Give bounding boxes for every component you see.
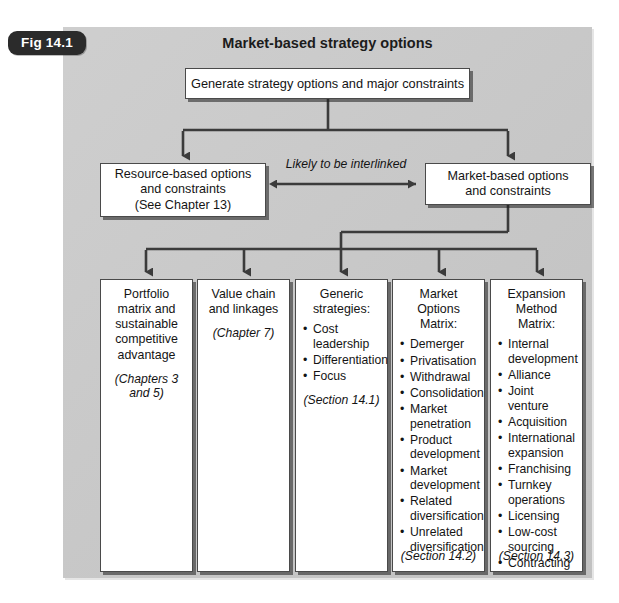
node-resource-line3: (See Chapter 13) xyxy=(135,198,232,212)
list-item: Franchising xyxy=(498,462,576,477)
node-resource-label: Resource-based options and constraints (… xyxy=(115,167,252,213)
column-portfolio-matrix: Portfolio matrix and sustainable competi… xyxy=(100,279,193,572)
list-item: Privatisation xyxy=(400,354,478,369)
column-value-chain-head: Value chain and linkages xyxy=(204,287,283,317)
column-expansion-method-matrix-section: (Section 14.3) xyxy=(491,549,582,563)
column-generic-strategies-bullets: Cost leadershipDifferentiationFocus xyxy=(303,322,381,384)
list-item: Focus xyxy=(303,369,381,384)
list-item: Market development xyxy=(400,464,478,493)
node-resource-line1: Resource-based options xyxy=(115,167,252,181)
node-market-line1: Market-based options xyxy=(447,169,568,183)
column-portfolio-matrix-head: Portfolio matrix and sustainable competi… xyxy=(107,287,186,363)
list-item: Withdrawal xyxy=(400,370,478,385)
list-item: Product development xyxy=(400,433,478,462)
column-generic-strategies: Generic strategies: Cost leadershipDiffe… xyxy=(295,279,388,572)
node-market-based-options: Market-based options and constraints xyxy=(425,163,591,205)
node-resource-line2: and constraints xyxy=(140,182,225,196)
list-item: International expansion xyxy=(498,431,576,460)
node-market-line2: and constraints xyxy=(465,184,550,198)
column-market-options-matrix-bullets: DemergerPrivatisationWithdrawalConsolida… xyxy=(400,337,478,554)
list-item: Joint venture xyxy=(498,384,576,413)
column-portfolio-matrix-note: (Chapters 3 and 5) xyxy=(107,372,186,401)
node-market-label: Market-based options and constraints xyxy=(447,169,568,200)
column-value-chain-note: (Chapter 7) xyxy=(204,326,283,341)
node-generate-strategy-options: Generate strategy options and major cons… xyxy=(185,68,470,99)
list-item: Turnkey operations xyxy=(498,478,576,507)
list-item: Market penetration xyxy=(400,402,478,431)
column-market-options-matrix-section: (Section 14.2) xyxy=(393,549,484,563)
column-generic-strategies-section: (Section 14.1) xyxy=(302,393,381,408)
list-item: Alliance xyxy=(498,368,576,383)
figure-number-badge: Fig 14.1 xyxy=(8,31,86,55)
list-item: Cost leadership xyxy=(303,322,381,351)
list-item: Licensing xyxy=(498,509,576,524)
column-value-chain: Value chain and linkages (Chapter 7) xyxy=(197,279,290,572)
list-item: Acquisition xyxy=(498,415,576,430)
column-expansion-method-matrix-head: Expansion Method Matrix: xyxy=(497,287,576,332)
column-market-options-matrix: Market Options Matrix: DemergerPrivatisa… xyxy=(392,279,485,572)
list-item: Differentiation xyxy=(303,353,381,368)
list-item: Internal development xyxy=(498,337,576,366)
figure-root: Fig 14.1 Market-based strategy options xyxy=(0,0,619,603)
list-item: Consolidation xyxy=(400,386,478,401)
figure-title: Market-based strategy options xyxy=(63,35,592,51)
list-item: Demerger xyxy=(400,337,478,352)
column-generic-strategies-head: Generic strategies: xyxy=(302,287,381,317)
column-expansion-method-matrix-bullets: Internal developmentAllianceJoint ventur… xyxy=(498,337,576,570)
node-resource-based-options: Resource-based options and constraints (… xyxy=(100,163,266,217)
list-item: Related diversification xyxy=(400,494,478,523)
column-expansion-method-matrix: Expansion Method Matrix: Internal develo… xyxy=(490,279,583,572)
node-generate-label: Generate strategy options and major cons… xyxy=(191,76,464,92)
column-market-options-matrix-head: Market Options Matrix: xyxy=(399,287,478,332)
interlink-annotation: Likely to be interlinked xyxy=(266,157,426,171)
